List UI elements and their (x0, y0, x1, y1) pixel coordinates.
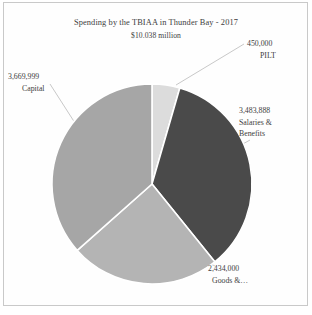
slice-name-goods: Goods &… (212, 275, 248, 287)
slice-label-goods: 2,434,000 Goods &… (208, 263, 248, 286)
slice-name-salaries-line1: Salaries & (239, 117, 272, 129)
leader-line-pilt (176, 44, 244, 85)
slice-value-salaries: 3,483,888 (239, 105, 272, 117)
pie-slices (52, 84, 252, 284)
slice-name-capital: Capital (22, 83, 45, 95)
slice-value-pilt: 450,000 (247, 38, 276, 50)
slice-label-salaries: 3,483,888 Salaries & Benefits (239, 105, 272, 140)
slice-label-pilt: 450,000 PILT (247, 38, 276, 61)
pie-chart: Spending by the TBIAA in Thunder Bay - 2… (0, 0, 312, 315)
slice-value-capital: 3,669,999 (8, 71, 45, 83)
leader-line-capital (50, 84, 75, 123)
slice-label-capital: 3,669,999 Capital (8, 71, 45, 94)
slice-value-goods: 2,434,000 (208, 263, 248, 275)
slice-name-pilt: PILT (260, 50, 276, 62)
slice-name-salaries-line2: Benefits (239, 128, 272, 140)
